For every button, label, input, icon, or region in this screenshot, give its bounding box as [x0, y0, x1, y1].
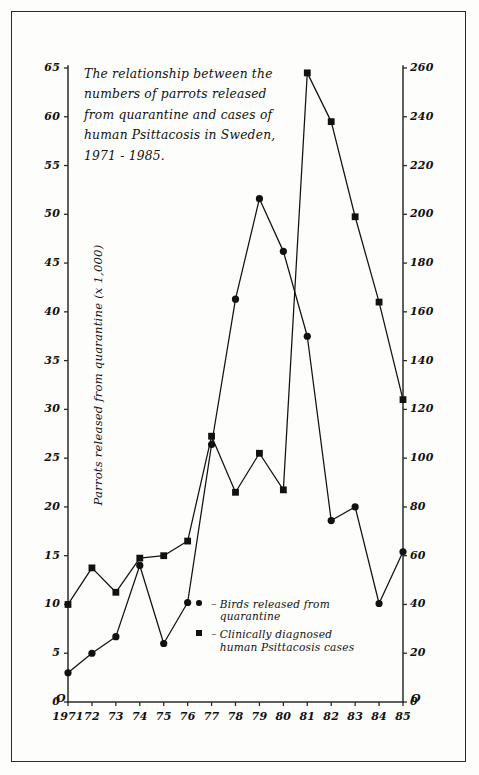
- data-series: [64, 69, 406, 676]
- data-point-cases-78: [232, 489, 239, 496]
- legend-dash: –: [210, 598, 220, 610]
- legend-item-cases: – Clinically diagnosed human Psittacosis…: [196, 628, 354, 652]
- data-point-birds-80: [280, 248, 287, 255]
- circle-marker-icon: [196, 598, 210, 606]
- data-point-cases-77: [208, 433, 215, 440]
- data-point-birds-73: [112, 633, 119, 640]
- data-point-cases-74: [136, 555, 143, 562]
- data-point-birds-74: [136, 562, 143, 569]
- data-point-birds-1971: [64, 669, 71, 676]
- data-point-cases-80: [280, 486, 287, 493]
- data-point-birds-81: [304, 333, 311, 340]
- data-point-birds-76: [184, 599, 191, 606]
- data-point-birds-79: [256, 195, 263, 202]
- legend-item-birds: – Birds released from quarantine: [196, 598, 354, 622]
- legend-label-cases: Clinically diagnosed human Psittacosis c…: [220, 628, 355, 652]
- data-point-cases-73: [112, 589, 119, 596]
- data-point-birds-82: [328, 517, 335, 524]
- data-point-birds-83: [352, 503, 359, 510]
- data-point-cases-83: [352, 213, 359, 220]
- chart-legend: – Birds released from quarantine – Clini…: [196, 598, 354, 659]
- data-point-birds-78: [232, 296, 239, 303]
- data-point-cases-84: [376, 299, 383, 306]
- figure-page: The relationship between the numbers of …: [0, 0, 479, 775]
- square-marker-icon: [196, 628, 210, 636]
- data-point-cases-81: [304, 69, 311, 76]
- data-point-cases-85: [400, 396, 407, 403]
- legend-dash: –: [210, 628, 220, 640]
- data-point-birds-72: [88, 650, 95, 657]
- data-point-birds-84: [375, 600, 382, 607]
- data-point-birds-85: [399, 548, 406, 555]
- data-point-cases-76: [184, 538, 191, 545]
- data-point-cases-82: [328, 118, 335, 125]
- data-point-cases-1971: [65, 601, 72, 608]
- legend-label-birds: Birds released from quarantine: [220, 598, 330, 622]
- data-point-cases-75: [160, 552, 167, 559]
- data-point-cases-79: [256, 450, 263, 457]
- data-point-cases-72: [89, 564, 96, 571]
- data-point-birds-75: [160, 640, 167, 647]
